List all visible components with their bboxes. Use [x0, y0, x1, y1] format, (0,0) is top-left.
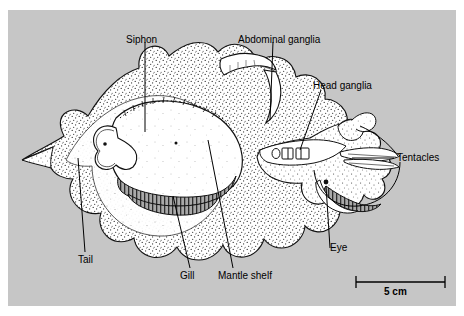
- label-gill: Gill: [180, 270, 194, 281]
- aplysia-body: [22, 42, 400, 260]
- figure-root: Siphon Abdominal ganglia Head ganglia Te…: [0, 0, 464, 316]
- label-tentacles: Tentacles: [397, 152, 439, 163]
- anatomy-illustration: [8, 10, 456, 306]
- label-abdominal-ganglia: Abdominal ganglia: [238, 34, 320, 45]
- label-eye: Eye: [330, 242, 347, 253]
- figure-top-caption: [8, 0, 308, 9]
- figure-panel: Siphon Abdominal ganglia Head ganglia Te…: [8, 10, 456, 306]
- label-head-ganglia: Head ganglia: [313, 80, 372, 91]
- eye-dot: [324, 180, 329, 185]
- body-dot-a: [175, 142, 178, 145]
- label-tail: Tail: [78, 254, 93, 265]
- label-siphon: Siphon: [126, 34, 157, 45]
- label-mantle-shelf: Mantle shelf: [218, 270, 272, 281]
- scale-bar-label: 5 cm: [384, 286, 407, 297]
